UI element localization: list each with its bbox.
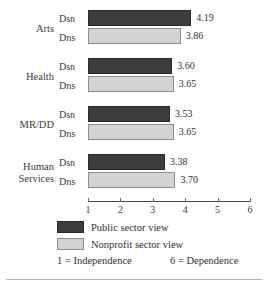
bar-value-public: 3.60 [177, 61, 195, 71]
category-label: Health [2, 58, 54, 96]
bar-nonprofit-sector [88, 76, 174, 92]
legend-item-public: Public sector view [57, 220, 257, 235]
x-axis-tick [120, 198, 121, 202]
x-axis-tick-label: 3 [144, 204, 162, 215]
bar-value-nonprofit: 3.86 [186, 31, 204, 41]
category-label-line: Services [18, 173, 54, 185]
bar-group: MR/DDDsnDns3.533.65 [0, 106, 268, 144]
bar-value-nonprofit: 3.65 [179, 127, 197, 137]
bar-group: HumanServicesDsnDns3.383.70 [0, 154, 268, 192]
legend-item-nonprofit: Nonprofit sector view [57, 237, 257, 252]
chart-legend: Public sector view Nonprofit sector view [57, 220, 257, 254]
bottom-divider [6, 279, 262, 280]
bar-value-public: 3.38 [170, 157, 188, 167]
x-axis-tick-label: 1 [79, 204, 97, 215]
plot-area: ArtsDsnDns4.193.86HealthDsnDns3.603.65MR… [0, 0, 268, 204]
scale-min-note: 1 = Independence [57, 255, 132, 267]
category-label: Arts [2, 10, 54, 48]
bar-group: ArtsDsnDns4.193.86 [0, 10, 268, 48]
legend-swatch-nonprofit [57, 238, 84, 250]
category-label-line: Human [23, 161, 54, 173]
scale-max-note: 6 = Dependence [170, 255, 238, 267]
legend-label-nonprofit: Nonprofit sector view [91, 238, 183, 251]
bar-group: HealthDsnDns3.603.65 [0, 58, 268, 96]
category-label: HumanServices [2, 154, 54, 192]
x-axis-line [88, 201, 250, 202]
x-axis-tick-label: 5 [209, 204, 227, 215]
category-label-line: MR/DD [20, 119, 54, 131]
bar-nonprofit-sector [88, 28, 181, 44]
category-label-line: Health [26, 71, 54, 83]
bar-nonprofit-sector [88, 172, 175, 188]
bar-value-public: 4.19 [196, 13, 214, 23]
legend-label-public: Public sector view [91, 221, 169, 234]
x-axis-tick [218, 198, 219, 202]
bar-public-sector [88, 154, 165, 170]
bar-chart: ArtsDsnDns4.193.86HealthDsnDns3.603.65MR… [0, 0, 268, 287]
bar-value-nonprofit: 3.70 [180, 175, 198, 185]
bar-value-public: 3.53 [175, 109, 193, 119]
series-code-nonprofit: Dns [59, 129, 85, 139]
category-label-line: Arts [36, 23, 54, 35]
series-code-nonprofit: Dns [59, 81, 85, 91]
bar-public-sector [88, 10, 191, 26]
legend-swatch-public [57, 221, 84, 233]
x-axis-tick-label: 6 [241, 204, 259, 215]
series-code-public: Dsn [59, 62, 85, 72]
x-axis-tick [250, 198, 251, 202]
bar-value-nonprofit: 3.65 [179, 79, 197, 89]
bar-public-sector [88, 106, 170, 122]
series-code-nonprofit: Dns [59, 33, 85, 43]
bar-nonprofit-sector [88, 124, 174, 140]
x-axis-tick [153, 198, 154, 202]
series-code-nonprofit: Dns [59, 177, 85, 187]
bar-public-sector [88, 58, 172, 74]
x-axis-tick [185, 198, 186, 202]
series-code-public: Dsn [59, 158, 85, 168]
series-code-public: Dsn [59, 110, 85, 120]
x-axis-tick [88, 198, 89, 202]
x-axis-tick-label: 4 [176, 204, 194, 215]
series-code-public: Dsn [59, 14, 85, 24]
category-label: MR/DD [2, 106, 54, 144]
x-axis-tick-label: 2 [111, 204, 129, 215]
